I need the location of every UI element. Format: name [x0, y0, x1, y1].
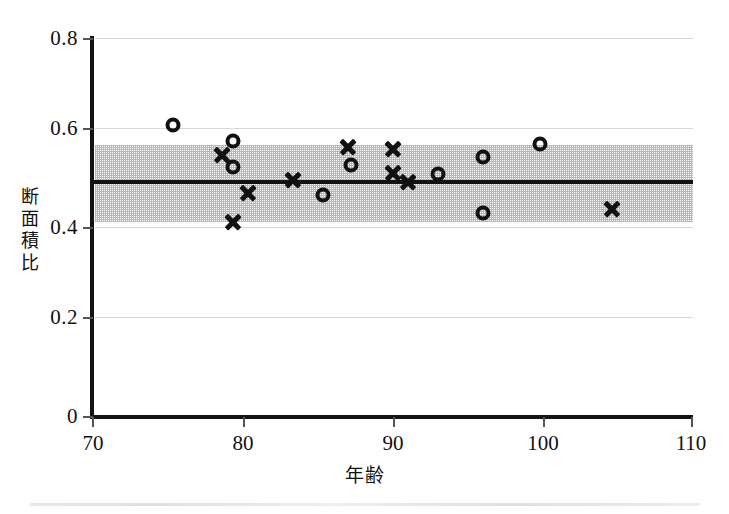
y-axis-title-char: 積 [18, 230, 42, 252]
y-tick-label-0.4: 0.4 [50, 217, 78, 238]
y-axis-title-char: 断 [18, 186, 42, 208]
y-tick-mark [83, 227, 93, 229]
x-tick-mark [543, 417, 545, 427]
open-circle-icon [344, 157, 359, 172]
gridline-0.4 [95, 227, 693, 228]
x-tick-label-110: 110 [676, 432, 707, 454]
gridline-0.2 [95, 317, 693, 318]
y-tick-label-0.6: 0.6 [50, 118, 78, 139]
y-tick-mark [83, 128, 93, 130]
open-circle-icon [533, 136, 548, 151]
x-tick-mark [393, 417, 395, 427]
x-tick-label-100: 100 [527, 432, 559, 454]
gridline-0.8 [95, 38, 693, 39]
y-tick-label-0.8: 0.8 [50, 28, 78, 49]
x-tick-mark [243, 417, 245, 427]
x-tick-mark [691, 417, 693, 427]
x-tick-label-90: 90 [383, 432, 404, 454]
y-tick-label-0: 0 [67, 406, 78, 427]
x-cross-icon [339, 138, 357, 156]
gridline-0.6 [95, 128, 693, 129]
x-cross-icon [384, 140, 402, 158]
x-tick-label-70: 70 [83, 432, 104, 454]
x-cross-icon [399, 173, 417, 191]
open-circle-icon [476, 149, 491, 164]
y-axis-title: 断 面 積 比 [18, 186, 42, 274]
y-axis-title-char: 面 [18, 208, 42, 230]
x-cross-icon [603, 200, 621, 218]
open-circle-icon [476, 206, 491, 221]
scan-artifact [30, 503, 700, 506]
x-cross-icon [239, 184, 257, 202]
y-tick-label-0.2: 0.2 [50, 307, 78, 328]
scatter-plot-figure: 0.8 0.6 0.4 0.2 0 70 80 90 100 110 年齢 断 … [0, 0, 729, 514]
x-cross-icon [224, 213, 242, 231]
open-circle-icon [315, 188, 330, 203]
y-tick-mark [83, 38, 93, 40]
y-axis-title-char: 比 [18, 252, 42, 274]
x-tick-mark [92, 417, 94, 427]
x-cross-icon [213, 146, 231, 164]
x-axis-title: 年齢 [0, 466, 729, 486]
y-tick-mark [83, 317, 93, 319]
x-axis-line [91, 415, 693, 419]
open-circle-icon [431, 166, 446, 181]
x-tick-label-80: 80 [233, 432, 254, 454]
x-cross-icon [284, 171, 302, 189]
open-circle-icon [165, 117, 180, 132]
